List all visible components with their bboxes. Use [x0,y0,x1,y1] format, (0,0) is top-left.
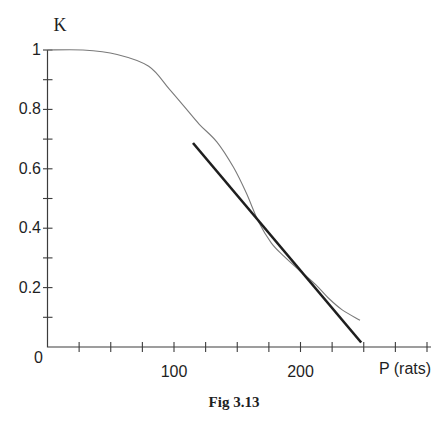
tick-labels: 10020010.80.60.40.20 [19,41,314,380]
tangent-line [193,143,361,343]
carrying-capacity-curve [48,50,361,321]
k-vs-p-chart: 10020010.80.60.40.20 K P (rats) Fig 3.13 [0,0,448,427]
figure-caption: Fig 3.13 [209,394,260,410]
x-tick-label: 200 [287,363,314,380]
x-tick-label: 100 [161,363,188,380]
axes [43,50,431,352]
plot-series [48,50,362,343]
y-axis-label: K [54,15,67,35]
y-tick-label: 0.2 [19,279,41,296]
y-tick-label: 0.6 [19,160,41,177]
y-tick-label: 0.4 [19,219,41,236]
x-axis-label: P (rats) [379,360,431,377]
y-tick-label: 0.8 [19,100,41,117]
figure-page: 10020010.80.60.40.20 K P (rats) Fig 3.13 [0,0,448,427]
y-tick-label: 0 [34,349,43,366]
y-tick-label: 1 [32,41,41,58]
